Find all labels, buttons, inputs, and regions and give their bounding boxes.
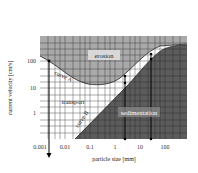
- marker-dot: [48, 60, 51, 63]
- sedimentation-label: sedimentation: [121, 109, 158, 116]
- y-axis: 100 10 1 current velocity [cm/s]: [7, 58, 36, 116]
- x-tick-0.1: 0.1: [86, 144, 94, 150]
- marker-dot: [124, 138, 127, 141]
- erosion-label: erosion: [94, 52, 114, 59]
- marker-dot: [124, 75, 127, 78]
- transport-label: transport: [61, 98, 84, 105]
- arrow-down-icon: [47, 153, 52, 158]
- y-tick-100: 100: [27, 58, 36, 64]
- marker-dot: [150, 53, 153, 56]
- x-tick-10: 10: [137, 144, 143, 150]
- y-axis-label: current velocity [cm/s]: [7, 61, 14, 116]
- hjulstrom-diagram: erosion transport sedimentation curve A …: [0, 0, 198, 173]
- x-tick-100: 100: [161, 144, 170, 150]
- y-tick-10: 10: [30, 85, 36, 91]
- x-tick-1: 1: [114, 144, 117, 150]
- x-tick-0.01: 0.01: [60, 144, 71, 150]
- y-tick-1: 1: [33, 110, 36, 116]
- marker-dot: [150, 138, 153, 141]
- x-axis: 0.001 0.01 0.1 1 10 100 particle size [m…: [33, 144, 169, 163]
- marker-dot: [150, 58, 153, 61]
- x-tick-0.001: 0.001: [33, 144, 47, 150]
- marker-dot: [124, 82, 127, 85]
- x-axis-label: particle size [mm]: [92, 156, 136, 163]
